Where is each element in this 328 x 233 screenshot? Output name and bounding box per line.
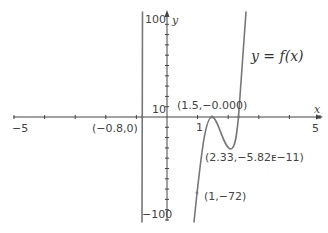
x-tick-label-1: 1 (196, 122, 203, 133)
y-tick-label-10: 10 (152, 104, 166, 115)
y-tick-label-100: 100 (145, 14, 166, 25)
function-plot (0, 0, 328, 233)
annotation-point-1: (1,−72) (204, 191, 246, 202)
x-axis-label: x (314, 104, 320, 115)
y-tick-label-neg100: −100 (142, 209, 172, 220)
function-label: y = f(x) (251, 49, 304, 63)
y-axis-label: y (172, 15, 178, 26)
x-tick-label-5: 5 (312, 123, 319, 134)
x-tick-label-neg5: −5 (12, 123, 28, 134)
x-axis (13, 115, 323, 120)
annotation-local-max: (1.5,−0.000) (177, 100, 247, 111)
annotation-local-min: (2.33,−5.82ᴇ−11) (205, 152, 304, 163)
annotation-root-left: (−0.8,0) (92, 123, 138, 134)
